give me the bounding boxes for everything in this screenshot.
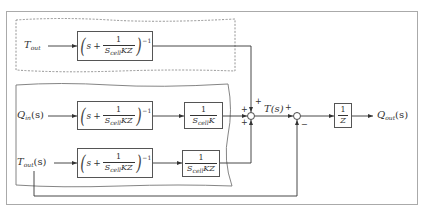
sum2-sign-bottom: −: [301, 121, 308, 129]
output-q-out: Qout(s): [377, 110, 408, 121]
block-tf-top: (s+ 1ScellKZ )−1: [77, 31, 153, 61]
block-gain-qin: 1ScellK: [184, 102, 223, 129]
input-t-out-top: Tout: [24, 40, 41, 51]
sum1-sign-top: +: [255, 98, 262, 106]
input-q-in: Qin(s): [17, 110, 44, 121]
input-t-out-bottom: Tout(s): [17, 157, 47, 168]
sum2-sign-left: +: [285, 104, 292, 112]
block-tf-tout: (s+ 1ScellKZ )−1: [77, 148, 153, 178]
signal-t-s: T(s): [264, 104, 284, 114]
sum1-sign-left: +: [241, 106, 248, 114]
summing-junction-2: [294, 113, 301, 120]
block-tf-qin: (s+ 1ScellKZ )−1: [77, 101, 153, 130]
sum1-sign-bottom: +: [241, 119, 248, 127]
block-inv-z: 1Z: [334, 103, 352, 128]
summing-junction-1: [248, 113, 255, 120]
block-gain-tout: 1ScellKZ: [182, 150, 220, 177]
